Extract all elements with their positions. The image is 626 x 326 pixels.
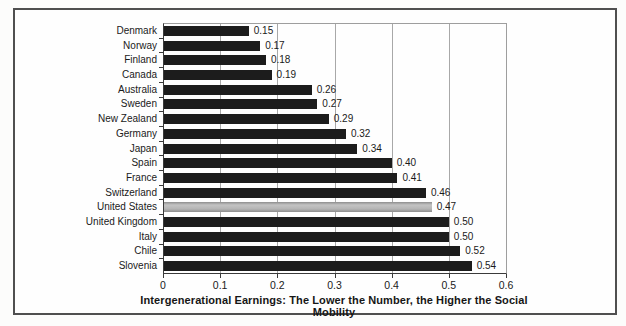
y-axis-tick-4 — [159, 82, 163, 83]
value-label-finland: 0.18 — [271, 54, 290, 66]
bar-france — [164, 173, 397, 183]
y-axis-tick-16 — [159, 258, 163, 259]
value-label-united-states: 0.47 — [437, 201, 456, 213]
value-label-japan: 0.34 — [362, 143, 381, 155]
x-tick-label-0.1: 0.1 — [203, 279, 237, 291]
category-label-united-kingdom: United Kingdom — [20, 216, 157, 228]
bar-new-zealand — [164, 114, 329, 124]
value-label-new-zealand: 0.29 — [334, 113, 353, 125]
bar-chile — [164, 246, 460, 256]
category-label-slovenia: Slovenia — [20, 260, 157, 272]
x-axis-tick-0 — [163, 274, 164, 278]
bar-japan — [164, 144, 357, 154]
value-label-sweden: 0.27 — [322, 98, 341, 110]
bar-spain — [164, 158, 392, 168]
x-axis-tick-0.5 — [449, 274, 450, 278]
y-axis-tick-11 — [159, 185, 163, 186]
category-label-japan: Japan — [20, 143, 157, 155]
y-axis-tick-1 — [159, 38, 163, 39]
category-label-denmark: Denmark — [20, 25, 157, 37]
x-tick-label-0.3: 0.3 — [318, 279, 352, 291]
y-axis-tick-10 — [159, 170, 163, 171]
category-label-italy: Italy — [20, 231, 157, 243]
bar-australia — [164, 85, 312, 95]
y-axis-tick-7 — [159, 126, 163, 127]
category-label-norway: Norway — [20, 40, 157, 52]
bar-slovenia — [164, 261, 472, 271]
y-axis-tick-5 — [159, 97, 163, 98]
y-axis-tick-6 — [159, 111, 163, 112]
category-label-france: France — [20, 172, 157, 184]
y-axis-tick-9 — [159, 155, 163, 156]
y-axis-tick-2 — [159, 52, 163, 53]
category-label-spain: Spain — [20, 157, 157, 169]
x-tick-label-0.4: 0.4 — [375, 279, 409, 291]
y-axis-tick-12 — [159, 199, 163, 200]
value-label-canada: 0.19 — [277, 69, 296, 81]
category-label-finland: Finland — [20, 54, 157, 66]
y-axis-tick-15 — [159, 244, 163, 245]
bar-canada — [164, 70, 272, 80]
bar-finland — [164, 55, 266, 65]
value-label-germany: 0.32 — [351, 128, 370, 140]
chart-canvas: 00.10.20.30.40.50.6Denmark0.15Norway0.17… — [0, 0, 626, 326]
x-axis-tick-0.3 — [335, 274, 336, 278]
value-label-italy: 0.50 — [454, 231, 473, 243]
category-label-germany: Germany — [20, 128, 157, 140]
x-axis-tick-0.6 — [506, 274, 507, 278]
value-label-united-kingdom: 0.50 — [454, 216, 473, 228]
y-axis-tick-8 — [159, 141, 163, 142]
value-label-slovenia: 0.54 — [477, 260, 496, 272]
bar-sweden — [164, 99, 317, 109]
bar-germany — [164, 129, 346, 139]
bar-italy — [164, 232, 449, 242]
category-label-australia: Australia — [20, 84, 157, 96]
category-label-canada: Canada — [20, 69, 157, 81]
bar-united-states — [164, 202, 432, 212]
category-label-chile: Chile — [20, 245, 157, 257]
y-axis-tick-3 — [159, 67, 163, 68]
x-axis-tick-0.1 — [220, 274, 221, 278]
y-axis-tick-14 — [159, 229, 163, 230]
value-label-australia: 0.26 — [317, 84, 336, 96]
bar-united-kingdom — [164, 217, 449, 227]
scanned-figure-page: 00.10.20.30.40.50.6Denmark0.15Norway0.17… — [0, 0, 626, 326]
chart-caption: Intergenerational Earnings: The Lower th… — [124, 294, 544, 318]
x-tick-label-0.2: 0.2 — [260, 279, 294, 291]
x-axis-tick-0.4 — [392, 274, 393, 278]
bar-switzerland — [164, 188, 426, 198]
value-label-switzerland: 0.46 — [431, 187, 450, 199]
value-label-denmark: 0.15 — [254, 25, 273, 37]
category-label-united-states: United States — [20, 201, 157, 213]
value-label-france: 0.41 — [402, 172, 421, 184]
bar-denmark — [164, 26, 249, 36]
x-tick-label-0: 0 — [146, 279, 180, 291]
category-label-sweden: Sweden — [20, 98, 157, 110]
category-label-switzerland: Switzerland — [20, 187, 157, 199]
y-axis-tick-13 — [159, 214, 163, 215]
value-label-spain: 0.40 — [397, 157, 416, 169]
category-label-new-zealand: New Zealand — [20, 113, 157, 125]
bar-norway — [164, 41, 260, 51]
x-axis-tick-0.2 — [277, 274, 278, 278]
x-tick-label-0.5: 0.5 — [432, 279, 466, 291]
value-label-norway: 0.17 — [265, 40, 284, 52]
x-tick-label-0.6: 0.6 — [489, 279, 523, 291]
value-label-chile: 0.52 — [465, 245, 484, 257]
